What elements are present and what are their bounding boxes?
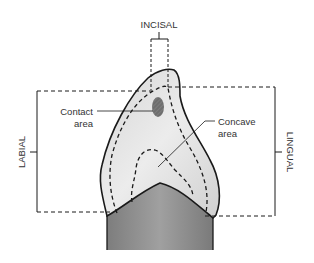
incisal-label: INCISAL — [141, 19, 178, 30]
contact-label-line1: Contact — [60, 106, 93, 117]
lingual-label: LINGUAL — [285, 132, 296, 173]
concave-label-line1: Concave — [218, 116, 256, 127]
concave-label-line2: area — [218, 128, 238, 139]
labial-label: LABIAL — [16, 136, 27, 168]
tooth-diagram: INCISAL LABIAL LINGUAL Contact area Conc… — [0, 0, 314, 263]
contact-area-ellipse — [152, 97, 164, 117]
contact-label-line2: area — [74, 118, 94, 129]
